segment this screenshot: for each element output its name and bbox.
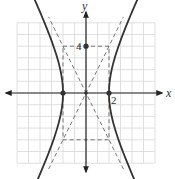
hyperbola-left-branch	[16, 0, 63, 179]
center-point	[84, 91, 88, 95]
axes	[6, 12, 162, 172]
y-axis-label: y	[81, 0, 88, 13]
x-axis-label: x	[165, 86, 172, 100]
x-tick-label: 2	[111, 94, 117, 106]
hyperbola-right-branch	[109, 0, 156, 179]
hyperbola-graph: x y 24	[0, 0, 175, 179]
co-vertex-point	[83, 44, 88, 49]
y-tick-label: 4	[76, 40, 82, 52]
vertex-point	[60, 90, 65, 95]
